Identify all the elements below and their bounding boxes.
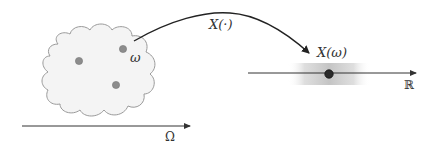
omega-axis-label: Ω xyxy=(165,131,175,143)
omega-point-label: ω xyxy=(130,51,141,64)
sample-space-cloud xyxy=(42,24,155,116)
mapping-label: X(·) xyxy=(209,18,233,31)
image-point xyxy=(325,70,333,78)
sample-point xyxy=(112,81,119,88)
sample-point-omega xyxy=(119,45,126,52)
image-point-label: X(ω) xyxy=(317,46,347,59)
sample-point xyxy=(75,57,82,64)
real-axis-label: ℝ xyxy=(404,79,414,91)
